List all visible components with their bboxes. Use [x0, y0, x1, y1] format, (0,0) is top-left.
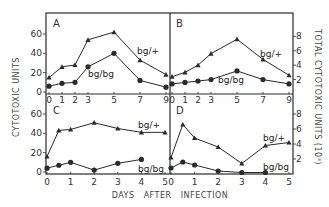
- panel-label-d: D: [176, 105, 184, 116]
- y-tick-label: 0: [36, 167, 42, 177]
- circle-marker: [115, 161, 120, 166]
- left-axis-label: CYTOTOXIC UNITS: [12, 57, 21, 137]
- y-tick-label: 2: [296, 154, 302, 164]
- y-tick-label: 4: [296, 60, 302, 70]
- series-label-d-bgbg: bg/bg: [263, 162, 289, 172]
- figure-canvas: 0123579020406001235792468012345020406001…: [0, 0, 329, 207]
- x-tick-label: 0: [168, 177, 174, 187]
- y-tick-label: 0: [36, 87, 42, 97]
- x-tick-label: 3: [85, 95, 91, 105]
- series-label-a-bgbg: bg/bg: [88, 69, 114, 79]
- series-line-d-bgplus: [171, 125, 289, 164]
- circle-marker: [286, 81, 291, 86]
- circle-marker: [111, 51, 116, 56]
- circle-marker: [234, 68, 239, 73]
- x-tick-label: 1: [182, 95, 188, 105]
- x-tick-label: 5: [111, 95, 117, 105]
- series-label-a-bgplus: bg/+: [137, 46, 159, 56]
- y-tick-label: 40: [31, 128, 43, 138]
- y-tick-label: 40: [31, 48, 43, 58]
- triangle-marker: [111, 29, 116, 34]
- circle-marker: [59, 81, 64, 86]
- series-label-b-bgbg: bg/bg: [218, 75, 244, 85]
- circle-marker: [92, 167, 97, 172]
- x-tick-label: 0: [169, 95, 175, 105]
- x-tick-label: 4: [139, 177, 145, 187]
- y-tick-label: 60: [31, 29, 43, 39]
- triangle-marker: [168, 155, 173, 160]
- triangle-marker: [44, 154, 49, 159]
- x-tick-label: 3: [239, 177, 245, 187]
- panel-label-c: C: [53, 105, 60, 116]
- y-tick-label: 20: [31, 148, 43, 158]
- x-tick-label: 3: [115, 177, 121, 187]
- x-tick-label: 5: [234, 95, 240, 105]
- circle-marker: [139, 157, 144, 162]
- panel-label-b: B: [176, 18, 183, 29]
- x-tick-label: 1: [59, 95, 65, 105]
- circle-marker: [180, 159, 185, 164]
- x-tick-label: 7: [260, 95, 266, 105]
- circle-marker: [168, 165, 173, 170]
- triangle-marker: [208, 51, 213, 56]
- series-label-d-bgplus: bg/+: [263, 133, 285, 143]
- x-tick-label: 2: [72, 95, 78, 105]
- circle-marker: [72, 80, 77, 85]
- x-tick-label: 0: [44, 177, 50, 187]
- circle-marker: [46, 84, 51, 89]
- circle-marker: [44, 166, 49, 171]
- y-tick-label: 20: [31, 68, 43, 78]
- y-tick-label: 6: [296, 46, 302, 56]
- circle-marker: [182, 80, 187, 85]
- triangle-marker: [180, 122, 185, 127]
- x-tick-label: 7: [137, 95, 143, 105]
- y-tick-label: 2: [296, 75, 302, 85]
- x-tick-label: 2: [91, 177, 97, 187]
- triangle-marker: [182, 70, 187, 75]
- circle-marker: [68, 160, 73, 165]
- circle-marker: [208, 77, 213, 82]
- circle-marker: [192, 162, 197, 167]
- y-tick-label: 8: [296, 31, 302, 41]
- x-tick-label: 5: [286, 177, 292, 187]
- y-tick-label: 60: [31, 109, 43, 119]
- panel-frames: [46, 13, 293, 174]
- triangle-marker: [234, 37, 239, 42]
- series-label-b-bgplus: bg/+: [260, 49, 282, 59]
- series-label-c-bgbg: bg/bg: [138, 164, 164, 174]
- series-label-c-bgplus: bg/+: [138, 120, 160, 130]
- triangle-marker: [163, 72, 168, 77]
- circle-marker: [169, 81, 174, 86]
- circle-marker: [56, 163, 61, 168]
- right-axis-label: TOTAL CYTOTOXIC UNITS (10³): [313, 28, 322, 165]
- triangle-marker: [72, 62, 77, 67]
- panel-label-a: A: [53, 18, 60, 29]
- x-axis-label: DAYS AFTER INFECTION: [112, 191, 229, 200]
- y-tick-label: 6: [296, 124, 302, 134]
- circle-marker: [163, 85, 168, 90]
- circle-marker: [195, 78, 200, 83]
- circle-marker: [137, 78, 142, 83]
- x-tick-label: 4: [263, 177, 269, 187]
- circle-marker: [260, 77, 265, 82]
- x-tick-label: 3: [208, 95, 214, 105]
- y-tick-label: 4: [296, 139, 302, 149]
- x-tick-label: 9: [286, 95, 292, 105]
- triangle-marker: [286, 73, 291, 78]
- x-tick-label: 5: [162, 177, 168, 187]
- triangle-marker: [92, 120, 97, 125]
- x-tick-label: 1: [68, 177, 74, 187]
- y-tick-label: 8: [296, 109, 302, 119]
- x-tick-label: 2: [215, 177, 221, 187]
- x-tick-label: 2: [195, 95, 201, 105]
- x-tick-label: 0: [46, 95, 52, 105]
- x-tick-label: 1: [192, 177, 198, 187]
